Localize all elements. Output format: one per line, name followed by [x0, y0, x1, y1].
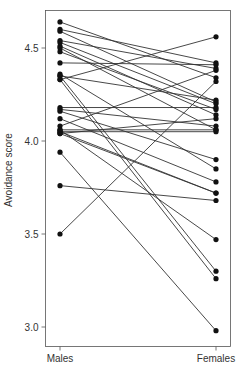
male-point	[57, 19, 62, 24]
male-point	[57, 127, 62, 132]
male-point	[57, 150, 62, 155]
pair-line	[60, 111, 216, 159]
male-point	[57, 231, 62, 236]
female-point	[213, 129, 218, 134]
male-point	[57, 77, 62, 82]
female-point	[213, 34, 218, 39]
female-point	[213, 68, 218, 73]
y-tick-label: 4.0	[25, 136, 39, 147]
pair-line	[60, 81, 216, 234]
pair-line	[60, 132, 216, 193]
female-point	[213, 116, 218, 121]
x-axis-ticks: MalesFemales	[47, 347, 236, 364]
female-point	[213, 105, 218, 110]
slope-chart: 3.03.54.04.5 MalesFemales Avoidance scor…	[0, 0, 242, 370]
pair-line	[60, 63, 216, 65]
pair-line	[60, 31, 216, 102]
male-point	[57, 116, 62, 121]
female-point	[213, 157, 218, 162]
female-point	[213, 276, 218, 281]
y-axis-label: Avoidance score	[3, 133, 14, 207]
male-point	[57, 60, 62, 65]
pair-line	[60, 22, 216, 78]
female-point	[213, 269, 218, 274]
male-point	[57, 107, 62, 112]
pair-line	[60, 130, 216, 240]
female-point	[213, 190, 218, 195]
x-tick-label: Females	[197, 353, 235, 364]
female-point	[213, 166, 218, 171]
female-point	[213, 179, 218, 184]
y-axis-ticks: 3.03.54.04.5	[25, 43, 46, 333]
female-point	[213, 62, 218, 67]
female-point	[213, 97, 218, 102]
x-tick-label: Males	[47, 353, 74, 364]
female-point	[213, 328, 218, 333]
y-tick-label: 3.5	[25, 229, 39, 240]
y-tick-label: 4.5	[25, 43, 39, 54]
female-point	[213, 237, 218, 242]
female-point	[213, 79, 218, 84]
pair-line	[60, 186, 216, 201]
male-point	[57, 29, 62, 34]
pair-line	[60, 52, 216, 110]
male-point	[57, 183, 62, 188]
pair-lines	[60, 22, 216, 331]
y-tick-label: 3.0	[25, 322, 39, 333]
female-point	[213, 198, 218, 203]
pair-line	[60, 119, 216, 182]
male-point	[57, 49, 62, 54]
